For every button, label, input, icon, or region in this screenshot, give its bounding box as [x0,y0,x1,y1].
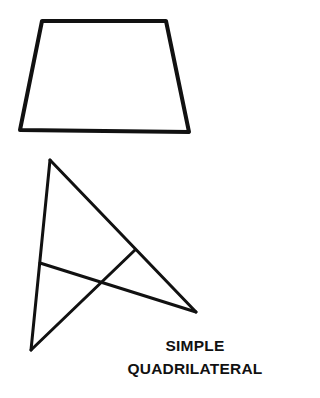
caption-line-2: QUADRILATERAL [95,357,293,380]
crossed-quadrilateral-shape [31,160,196,350]
trapezoid-shape [20,21,189,132]
caption-line-1: SIMPLE [95,334,293,357]
figure-caption: SIMPLE QUADRILATERAL [95,334,293,380]
